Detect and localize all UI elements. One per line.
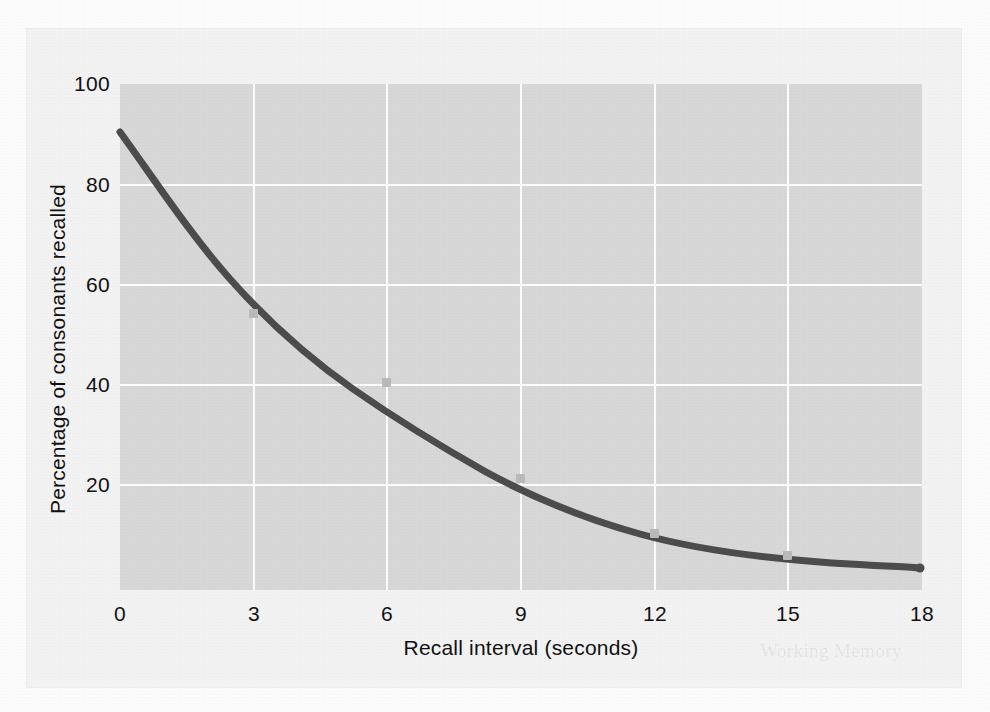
figure-page: dilution nih i ih lnimd fni tnuom Workin… [0, 0, 990, 712]
x-tick-12: 12 [625, 602, 685, 626]
data-point-15 [783, 551, 792, 560]
x-tick-0: 0 [90, 602, 150, 626]
x-tick-18: 18 [892, 602, 952, 626]
data-point-3 [249, 309, 258, 318]
data-point-9 [516, 474, 525, 483]
x-axis-ticks: 0 3 6 9 12 15 18 [120, 602, 922, 632]
x-axis-title: Recall interval (seconds) [120, 636, 922, 660]
forgetting-curve-chart: 100 80 60 40 20 0 3 6 9 12 15 18 Recall … [0, 0, 990, 712]
data-point-markers [120, 84, 922, 590]
y-tick-100: 100 [52, 72, 110, 96]
x-tick-9: 9 [491, 602, 551, 626]
data-point-12 [650, 529, 659, 538]
x-tick-15: 15 [758, 602, 818, 626]
x-tick-6: 6 [357, 602, 417, 626]
x-tick-3: 3 [224, 602, 284, 626]
y-axis-title: Percentage of consonants recalled [46, 139, 70, 559]
data-point-6 [382, 378, 391, 387]
